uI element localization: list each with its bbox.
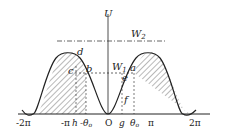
tick-pi: π bbox=[148, 118, 154, 128]
tick-theta0: θo bbox=[130, 118, 139, 128]
tick-neg-pi: -π bbox=[61, 118, 70, 128]
tick-neg-2pi: -2π bbox=[16, 118, 31, 128]
w2-label: W2 bbox=[131, 28, 146, 41]
hatched-region-left bbox=[36, 52, 86, 114]
tick-2pi: 2π bbox=[189, 118, 201, 128]
point-f: f bbox=[123, 94, 130, 105]
point-c: c bbox=[68, 65, 74, 76]
point-d: d bbox=[77, 46, 83, 57]
tick-h: h bbox=[72, 118, 78, 128]
point-a: a bbox=[130, 62, 136, 73]
tick-neg-theta0: -θo bbox=[80, 118, 92, 128]
tick-origin: O bbox=[105, 118, 112, 128]
point-e: e bbox=[122, 72, 128, 83]
point-b: b bbox=[86, 63, 92, 74]
u-label: U bbox=[104, 8, 113, 19]
tick-g: g bbox=[119, 118, 125, 128]
potential-diagram: U W2 W1 d c b a e f -2π -π h -θo O g θo … bbox=[0, 0, 225, 132]
